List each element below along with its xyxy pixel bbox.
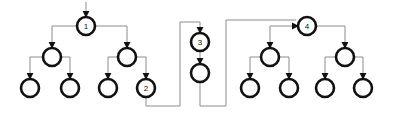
node-n4b[interactable] xyxy=(336,48,354,66)
node-n4a2[interactable] xyxy=(280,79,298,97)
node-n4b1[interactable] xyxy=(316,79,334,97)
node-3-label: 3 xyxy=(198,38,203,47)
node-n4a[interactable] xyxy=(261,48,279,66)
node-n4a1[interactable] xyxy=(241,79,259,97)
node-n1a2[interactable] xyxy=(61,79,79,97)
tree-diagram-svg: 1 2 3 4 xyxy=(0,0,395,113)
node-4-label: 4 xyxy=(305,22,310,31)
node-2-label: 2 xyxy=(144,84,149,93)
node-n4b2[interactable] xyxy=(354,79,372,97)
node-layer: 1 2 3 4 xyxy=(21,17,372,97)
node-n1b1[interactable] xyxy=(99,79,117,97)
node-n1a1[interactable] xyxy=(21,79,39,97)
node-n3a[interactable] xyxy=(191,64,209,82)
tree-diagram-canvas: 1 2 3 4 xyxy=(0,0,395,113)
node-n1a[interactable] xyxy=(43,48,61,66)
node-1-label: 1 xyxy=(84,22,89,31)
node-n1b[interactable] xyxy=(118,48,136,66)
